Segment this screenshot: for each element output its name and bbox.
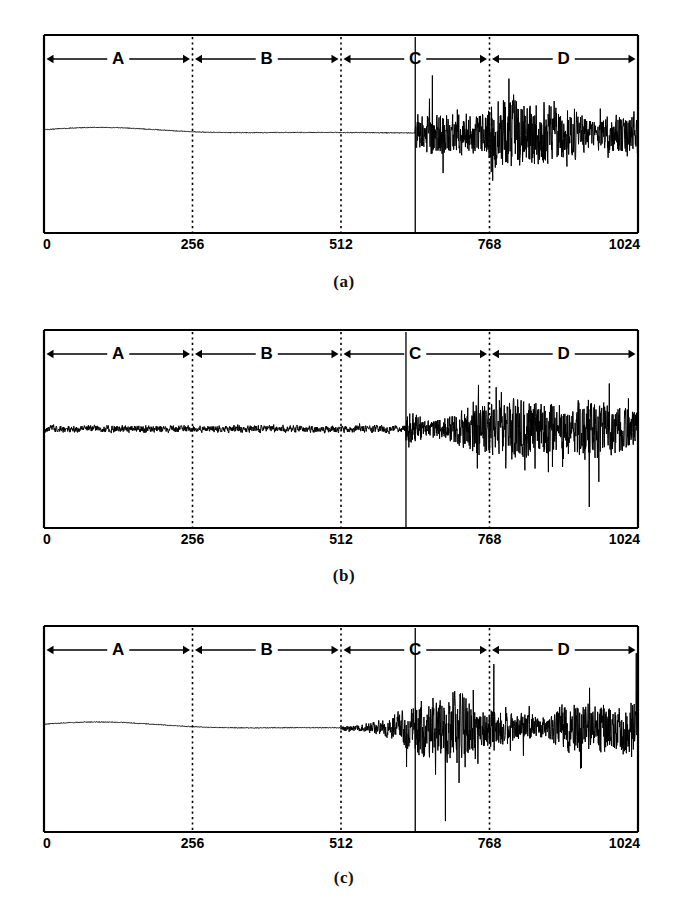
arrow-head-left <box>344 646 351 654</box>
plot-c: ABCD02565127681024 <box>0 0 688 866</box>
arrow-head-right <box>183 646 190 654</box>
arrow-head-left <box>47 646 54 654</box>
x-tick-label-768: 768 <box>478 835 502 851</box>
arrow-head-right <box>480 646 487 654</box>
signal-figure: ABCD02565127681024 (a) ABCD0256512768102… <box>0 0 688 911</box>
x-tick-label-0: 0 <box>43 835 51 851</box>
region-label-c: C <box>409 640 421 659</box>
waveform-svg: ABCD02565127681024 <box>0 0 688 866</box>
x-tick-label-512: 512 <box>329 835 353 851</box>
arrow-head-right <box>332 646 339 654</box>
arrow-head-right <box>629 646 636 654</box>
region-marker-c: C <box>344 640 488 659</box>
region-marker-b: B <box>195 640 339 659</box>
arrow-head-left <box>492 646 499 654</box>
panel-caption-c: (c) <box>0 868 688 888</box>
region-label-a: A <box>112 640 124 659</box>
region-label-b: B <box>261 640 273 659</box>
region-marker-a: A <box>47 640 191 659</box>
arrow-head-left <box>195 646 202 654</box>
x-tick-label-256: 256 <box>181 835 205 851</box>
x-tick-label-1024: 1024 <box>609 835 640 851</box>
region-marker-d: D <box>492 640 636 659</box>
region-label-d: D <box>558 640 570 659</box>
